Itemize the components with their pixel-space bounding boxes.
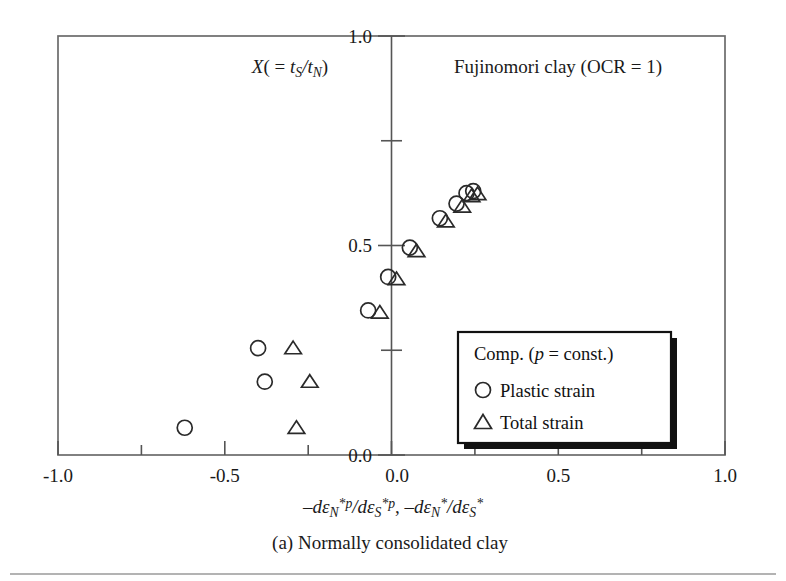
legend-title-post: = const.) <box>544 344 614 365</box>
y-tick-label-1: 1.0 <box>348 26 372 47</box>
legend-title: Comp. (p = const.) <box>474 344 613 365</box>
legend-entry-plastic-strain: Plastic strain <box>500 381 595 401</box>
data-markers-group <box>177 184 486 436</box>
data-point-triangle <box>288 421 305 434</box>
xlabel-supP1: *p <box>339 496 353 511</box>
x-axis-title: –dεN*p/dεS*p, –dεN*/dεS* <box>302 496 483 520</box>
y-axis-symbol-label: X( = tS/tN) <box>251 56 328 80</box>
xlabel-slash1: /d <box>351 496 367 517</box>
x-tick-label-0: 0.0 <box>385 465 409 486</box>
legend[interactable]: Comp. (p = const.) Plastic strain Total … <box>458 332 677 449</box>
figure-caption: (a) Normally consolidated clay <box>272 532 508 554</box>
y-axis-symbol-open: ( = <box>263 56 290 78</box>
x-tick-label-1: 1.0 <box>713 465 737 486</box>
legend-title-p: p <box>533 344 544 364</box>
y-tick-label-0: 0.0 <box>348 445 372 466</box>
xlabel-comma: , <box>395 496 405 517</box>
xlabel-supP2: *p <box>381 496 395 511</box>
xlabel-minus1: –d <box>302 496 323 517</box>
xlabel-supStar2: * <box>476 496 483 511</box>
xlabel-minus2: –d <box>404 496 425 517</box>
data-point-circle <box>177 420 192 435</box>
scatter-plot-svg: 1.0 0.5 0.0 -1.0 -0.5 0.0 0.5 1.0 Fujino… <box>0 0 786 581</box>
legend-title-pre: Comp. ( <box>474 344 535 365</box>
x-tick-label-neg05: -0.5 <box>210 465 240 486</box>
y-tick-label-05: 0.5 <box>348 235 372 256</box>
x-tick-label-05: 0.5 <box>546 465 570 486</box>
data-point-triangle <box>285 341 302 354</box>
figure-container: 1.0 0.5 0.0 -1.0 -0.5 0.0 0.5 1.0 Fujino… <box>0 0 786 581</box>
y-axis-close: ) <box>322 56 328 78</box>
data-point-triangle <box>438 214 455 227</box>
legend-entry-total-strain: Total strain <box>500 413 583 433</box>
data-point-triangle <box>302 375 319 388</box>
xlabel-slash2: /d <box>446 496 462 517</box>
x-tick-label-neg1: -1.0 <box>43 465 73 486</box>
data-point-circle <box>257 374 272 389</box>
data-point-circle <box>251 341 266 356</box>
plot-title: Fujinomori clay (OCR = 1) <box>454 56 662 78</box>
